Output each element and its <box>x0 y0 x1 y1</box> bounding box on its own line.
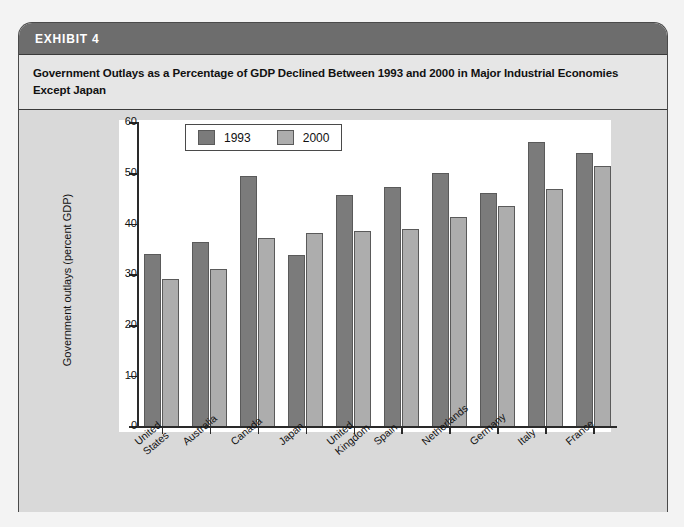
bar-france-1993 <box>576 153 593 427</box>
y-axis-title: Government outlays (percent GDP) <box>61 150 73 410</box>
bar-canada-1993 <box>240 176 257 426</box>
bar-canada-2000 <box>258 238 275 426</box>
bar-united-kingdom-2000 <box>354 231 371 427</box>
exhibit-subtitle-band: Government Outlays as a Percentage of GD… <box>19 55 667 110</box>
bar-netherlands-1993 <box>432 173 449 426</box>
y-tick-label: 20 <box>103 318 137 330</box>
bar-spain-2000 <box>402 229 419 426</box>
exhibit-titlebar: EXHIBIT 4 <box>19 23 667 55</box>
legend-label-2000: 2000 <box>303 131 330 145</box>
bar-germany-1993 <box>480 193 497 426</box>
chart-region: Government outlays (percent GDP) 0102030… <box>19 110 667 512</box>
y-tick-label: 0 <box>103 419 137 431</box>
bar-australia-1993 <box>192 242 209 426</box>
y-tick-label: 50 <box>103 166 137 178</box>
legend-item-2000: 2000 <box>277 130 330 145</box>
bar-netherlands-2000 <box>450 217 467 426</box>
exhibit-subtitle: Government Outlays as a Percentage of GD… <box>33 65 653 98</box>
y-tick-label: 60 <box>103 115 137 127</box>
legend-label-1993: 1993 <box>224 131 251 145</box>
y-tick-label: 40 <box>103 217 137 229</box>
bar-germany-2000 <box>498 206 515 426</box>
exhibit-card: EXHIBIT 4 Government Outlays as a Percen… <box>18 22 668 512</box>
bar-united-states-2000 <box>162 279 179 426</box>
bar-australia-2000 <box>210 269 227 427</box>
bar-france-2000 <box>594 166 611 426</box>
y-tick-label: 10 <box>103 369 137 381</box>
bar-united-states-1993 <box>144 254 161 427</box>
bar-italy-2000 <box>546 189 563 427</box>
legend-swatch-2000 <box>277 130 294 145</box>
bar-united-kingdom-1993 <box>336 195 353 426</box>
chart-legend: 1993 2000 <box>185 124 342 151</box>
legend-item-1993: 1993 <box>198 130 251 145</box>
bar-japan-2000 <box>306 233 323 427</box>
y-tick-label: 30 <box>103 267 137 279</box>
bar-japan-1993 <box>288 255 305 426</box>
bars-layer <box>138 122 617 426</box>
legend-swatch-1993 <box>198 130 215 145</box>
x-tick-mark <box>401 427 403 434</box>
bar-chart: Government outlays (percent GDP) 0102030… <box>27 116 659 512</box>
bar-italy-1993 <box>528 142 545 427</box>
exhibit-label: EXHIBIT 4 <box>19 32 100 46</box>
x-tick-mark <box>545 427 547 434</box>
bar-spain-1993 <box>384 187 401 427</box>
exhibit-page: EXHIBIT 4 Government Outlays as a Percen… <box>0 0 684 527</box>
